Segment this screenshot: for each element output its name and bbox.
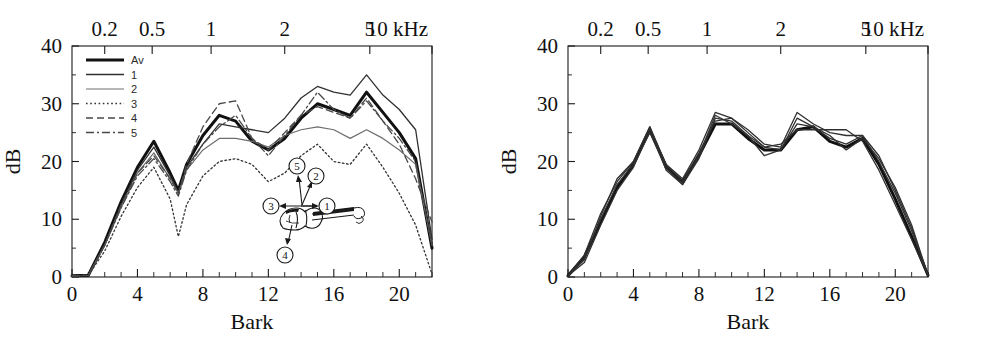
- series-line-5: [72, 92, 432, 276]
- x-tick-label: 4: [628, 282, 639, 306]
- x-top-tick-label: 1: [206, 17, 217, 41]
- x-tick-label: 20: [885, 282, 906, 306]
- legend-label-Av: Av: [131, 54, 144, 66]
- x-top-tick-label: 1: [702, 17, 713, 41]
- y-tick-label: 30: [41, 92, 62, 116]
- plot-frame: [72, 46, 432, 277]
- y-tick-label: 10: [537, 207, 558, 231]
- callout-1-label: 1: [324, 200, 330, 212]
- series-line-3: [568, 118, 928, 276]
- x-tick-label: 0: [67, 282, 78, 306]
- callout-1: 1: [319, 198, 335, 214]
- x-top-tick-label: 2: [279, 17, 290, 41]
- panel-right: 010203040dB048121620Bark0.20.512510 kHz: [500, 0, 1000, 340]
- callout-2: 2: [308, 168, 324, 184]
- callout-5-label: 5: [294, 160, 300, 172]
- panel-left: 010203040dB048121620Bark0.20.512510 kHz …: [0, 0, 500, 340]
- y-tick-label: 0: [548, 265, 559, 289]
- figure-violin-radiation-spectra: 010203040dB048121620Bark0.20.512510 kHz …: [0, 0, 1000, 340]
- x-axis-title: Bark: [231, 309, 274, 334]
- x-tick-label: 12: [754, 282, 775, 306]
- y-tick-label: 40: [41, 34, 62, 58]
- x-tick-label: 8: [694, 282, 705, 306]
- x-tick-label: 16: [819, 282, 840, 306]
- legend-label-2: 2: [131, 83, 137, 95]
- x-top-tick-label: 0.5: [139, 17, 165, 41]
- series-line-Av: [72, 92, 432, 276]
- callout-5: 5: [289, 158, 305, 174]
- x-top-tick-label: 2: [775, 17, 786, 41]
- legend-label-3: 3: [131, 98, 137, 110]
- legend: Av12345: [86, 54, 144, 139]
- x-top-tick-label: 10 kHz: [863, 17, 924, 41]
- y-axis-title: dB: [500, 149, 521, 175]
- legend-label-5: 5: [131, 127, 137, 139]
- x-tick-label: 0: [563, 282, 574, 306]
- series-line-2: [72, 127, 432, 276]
- left-curves: [72, 75, 432, 276]
- y-tick-label: 10: [41, 207, 62, 231]
- callout-arrowheads: [279, 175, 319, 245]
- y-tick-label: 20: [41, 150, 62, 174]
- violin-inset: 1 2 3 4 5: [263, 158, 365, 263]
- callout-4: 4: [277, 247, 293, 263]
- x-top-tick-label: 0.2: [588, 17, 614, 41]
- y-tick-label: 40: [537, 34, 558, 58]
- callout-3: 3: [263, 198, 279, 214]
- x-top-tick-label: 0.5: [635, 17, 661, 41]
- callout-4-label: 4: [282, 249, 288, 261]
- legend-label-4: 4: [131, 112, 137, 124]
- y-tick-label: 30: [537, 92, 558, 116]
- x-tick-label: 16: [323, 282, 344, 306]
- x-top-tick-label: 0.2: [92, 17, 118, 41]
- series-line-4: [72, 98, 432, 276]
- y-tick-label: 0: [52, 265, 63, 289]
- x-top-tick-label: 10 kHz: [367, 17, 428, 41]
- series-line-Av: [568, 124, 928, 276]
- callout-3-label: 3: [268, 200, 274, 212]
- x-tick-label: 12: [258, 282, 279, 306]
- callout-2-label: 2: [313, 170, 319, 182]
- y-axis-title: dB: [0, 149, 25, 175]
- right-axes: 010203040dB048121620Bark0.20.512510 kHz: [500, 17, 928, 334]
- right-panel-svg: 010203040dB048121620Bark0.20.512510 kHz: [500, 0, 1000, 340]
- right-curves: [568, 112, 928, 275]
- series-line-2: [568, 118, 928, 276]
- left-axes: 010203040dB048121620Bark0.20.512510 kHz: [0, 17, 432, 334]
- x-axis-title: Bark: [727, 309, 770, 334]
- series-line-3: [72, 144, 432, 276]
- y-tick-label: 20: [537, 150, 558, 174]
- left-panel-svg: 010203040dB048121620Bark0.20.512510 kHz …: [0, 0, 500, 340]
- x-tick-label: 4: [132, 282, 143, 306]
- x-tick-label: 20: [389, 282, 410, 306]
- x-tick-label: 8: [198, 282, 209, 306]
- legend-label-1: 1: [131, 69, 137, 81]
